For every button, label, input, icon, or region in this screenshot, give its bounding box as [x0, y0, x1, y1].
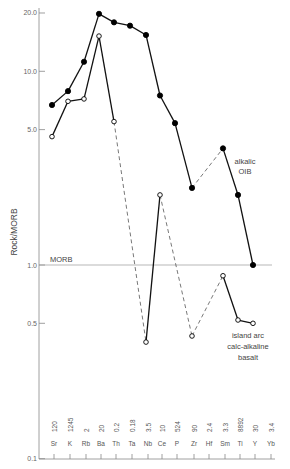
oib-data-point	[81, 59, 86, 64]
element-label: Rb	[82, 440, 91, 447]
oib-data-point	[127, 23, 132, 28]
solid-segment	[146, 195, 160, 342]
solid-segment	[146, 35, 160, 96]
morb-value-label: 524	[174, 421, 181, 432]
oib-data-point	[111, 20, 116, 25]
dashed-segment	[192, 148, 223, 188]
arc-data-point	[221, 273, 226, 278]
oib-data-point	[172, 121, 177, 126]
morb-value-label: 10	[159, 424, 166, 432]
morb-value-label: 1245	[67, 417, 74, 432]
arc-data-point	[251, 321, 256, 326]
element-label: P	[175, 440, 179, 447]
solid-segment	[175, 123, 192, 188]
oib-data-point	[250, 262, 255, 267]
solid-segment	[84, 14, 99, 62]
morb-value-label: 120	[51, 421, 58, 432]
oib-data-point	[189, 185, 194, 190]
y-tick-label: 10.0	[23, 68, 37, 75]
solid-segment	[238, 195, 253, 265]
oib-data-point	[235, 192, 240, 197]
oib-data-point	[157, 93, 162, 98]
solid-segment	[52, 91, 68, 105]
morb-label: MORB	[50, 255, 73, 264]
element-label: Ce	[158, 440, 167, 447]
morb-value-label: 90	[191, 424, 198, 432]
dashed-segment	[160, 195, 192, 336]
element-label: Ba	[97, 440, 105, 447]
solid-segment	[68, 62, 84, 91]
axes: 20.010.05.01.00.50.1Rock/MORBSr120K1245R…	[9, 8, 275, 462]
morb-value-label: 8892	[237, 417, 244, 432]
morb-value-label: 2.4	[206, 423, 213, 432]
morb-value-label: 2	[83, 428, 90, 432]
element-label: Ti	[237, 440, 242, 447]
arc-data-point	[236, 318, 241, 323]
oib-label: OIB	[239, 167, 252, 176]
element-label: K	[68, 440, 73, 447]
arc-data-point	[66, 99, 71, 104]
y-axis-label: Rock/MORB	[9, 208, 19, 256]
arc-data-point	[112, 119, 117, 124]
morb-value-label: 0.18	[129, 419, 136, 432]
arc-label: calc-alkaline	[227, 342, 268, 351]
y-tick-label: 20.0	[23, 9, 37, 16]
element-label: Zr	[191, 440, 198, 447]
oib-data-point	[65, 89, 70, 94]
y-tick-label: 1.0	[27, 262, 37, 269]
element-label: Sm	[220, 440, 230, 447]
element-label: Hf	[206, 440, 213, 447]
element-label: Yb	[267, 440, 275, 447]
solid-segment	[160, 96, 175, 124]
oib-label: alkalic	[235, 157, 256, 166]
morb-value-label: 3.5	[145, 423, 152, 432]
oib-data-point	[49, 102, 54, 107]
element-label: Y	[253, 440, 258, 447]
morb-value-label: 3.4	[268, 423, 275, 432]
dashed-segment	[192, 276, 223, 336]
arc-data-point	[97, 34, 102, 39]
arc-data-point	[50, 134, 55, 139]
oib-data-point	[220, 146, 225, 151]
solid-segment	[84, 36, 99, 99]
arc-label: basalt	[238, 353, 259, 362]
element-label: Nb	[144, 440, 153, 447]
arc-data-point	[190, 334, 195, 339]
dashed-segment	[114, 122, 146, 342]
element-label: Sr	[51, 440, 58, 447]
y-tick-label: 5.0	[27, 126, 37, 133]
arc-data-point	[82, 97, 87, 102]
morb-value-label: 20	[98, 424, 105, 432]
morb-value-label: 3.3	[222, 423, 229, 432]
solid-segment	[223, 148, 238, 195]
labels-layer: alkalicOIBisland arccalc-alkalinebasalt	[227, 157, 268, 362]
solid-segment	[223, 276, 238, 320]
spider-diagram: 20.010.05.01.00.50.1Rock/MORBSr120K1245R…	[0, 0, 290, 469]
oib-data-point	[143, 32, 148, 37]
series-layer	[49, 11, 255, 344]
y-tick-label: 0.1	[27, 455, 37, 462]
oib-data-point	[96, 11, 101, 16]
arc-label: island arc	[232, 331, 264, 340]
morb-value-label: 30	[252, 424, 259, 432]
morb-reference-line: MORB	[39, 255, 272, 265]
morb-value-label: 0.2	[113, 423, 120, 432]
element-label: Ta	[129, 440, 136, 447]
y-tick-label: 0.5	[27, 320, 37, 327]
arc-data-point	[144, 340, 149, 345]
solid-segment	[99, 36, 114, 122]
arc-data-point	[158, 193, 163, 198]
element-label: Th	[112, 440, 120, 447]
